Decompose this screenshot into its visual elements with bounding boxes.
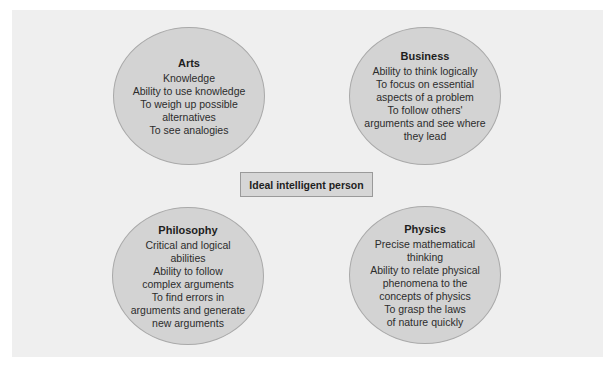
physics-line: thinking [407,251,443,264]
business-line: Ability to think logically [372,65,477,78]
philosophy-line: new arguments [152,317,224,330]
business-line: To follow others' [388,104,463,117]
center-label-box: Ideal intelligent person [240,172,373,197]
business-line: arguments and see where [364,117,485,130]
business-title: Business [401,49,450,64]
arts-line: To weigh up possible [140,98,237,111]
philosophy-line: Ability to follow [153,265,222,278]
philosophy-line: Critical and logical [145,239,230,252]
arts-line: Ability to use knowledge [133,85,246,98]
philosophy-line: arguments and generate [131,304,245,317]
physics-line: To grasp the laws [384,303,466,316]
arts-line: To see analogies [150,124,229,137]
arts-title: Arts [178,56,200,71]
philosophy-line: abilities [170,252,205,265]
physics-line: phenomena to the [383,277,468,290]
physics-line: Ability to relate physical [370,264,480,277]
physics-line: Precise mathematical [375,238,475,251]
business-line: they lead [404,130,447,143]
business-line: aspects of a problem [376,91,473,104]
physics-line: of nature quickly [387,316,463,329]
business-line: To focus on essential [376,78,474,91]
physics-circle: Physics Precise mathematical thinking Ab… [349,206,501,344]
philosophy-circle: Philosophy Critical and logical abilitie… [112,207,264,345]
physics-line: concepts of physics [379,290,471,303]
arts-line: alternatives [162,111,216,124]
philosophy-title: Philosophy [158,223,217,238]
physics-title: Physics [404,222,446,237]
business-circle: Business Ability to think logically To f… [349,27,501,165]
philosophy-line: complex arguments [142,278,234,291]
center-label: Ideal intelligent person [249,179,363,191]
arts-line: Knowledge [163,72,215,85]
arts-circle: Arts Knowledge Ability to use knowledge … [113,27,265,165]
philosophy-line: To find errors in [152,291,224,304]
